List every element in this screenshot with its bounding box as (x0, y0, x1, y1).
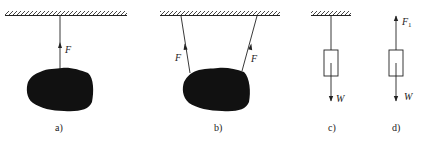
tension-subscript-d: 1 (408, 21, 412, 29)
rope-b-left (181, 16, 190, 73)
ceiling-a (5, 11, 127, 15)
ceiling-c (311, 11, 351, 15)
panel-c: W c) (311, 11, 351, 134)
ceiling-b (160, 11, 280, 15)
force-label-a: F (64, 44, 72, 55)
panel-a: F a) (5, 11, 127, 134)
caption-d: d) (392, 122, 400, 134)
force-diagram: F a) F F b) W c) F 1 W d) (0, 0, 421, 143)
weight-label-d: W (404, 91, 414, 102)
rock-a (27, 68, 93, 111)
caption-a: a) (55, 122, 63, 134)
caption-b: b) (214, 122, 222, 134)
panel-b: F F b) (160, 11, 280, 134)
force-arrow-a (58, 42, 62, 48)
panel-d: F 1 W d) (389, 16, 414, 134)
force-label-b-right: F (250, 53, 258, 64)
weight-label-c: W (336, 93, 346, 104)
force-label-b-left: F (174, 52, 182, 63)
caption-c: c) (328, 122, 336, 134)
rock-b (183, 68, 250, 111)
